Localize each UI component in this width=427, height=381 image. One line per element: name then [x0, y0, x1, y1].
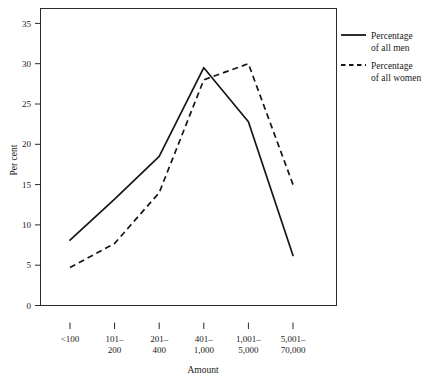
x-tick-label-5-line1: 1,001– — [236, 334, 261, 344]
x-tick-label-1-line1: <100 — [61, 334, 80, 344]
x-tick-label-3-line1: 201– — [150, 334, 169, 344]
x-tick-label-6-line1: 5,001– — [281, 334, 306, 344]
legend-label-men-line1: Percentage — [371, 31, 413, 41]
x-axis-ticks: <100 101– 200 201– 400 401– 1,000 1,001–… — [61, 323, 306, 356]
legend-label-men-line2: of all men — [371, 43, 410, 53]
y-tick-label-30: 30 — [22, 59, 32, 69]
x-axis-title: Amount — [187, 365, 219, 375]
chart-figure: 0 5 10 15 20 25 30 35 <100 101– 200 201–… — [0, 0, 427, 381]
series-line-women — [70, 64, 293, 268]
chart-legend: Percentage of all men Percentage of all … — [341, 31, 421, 83]
legend-label-women-line1: Percentage — [371, 61, 413, 71]
x-tick-label-2-line2: 200 — [108, 345, 122, 355]
y-tick-label-0: 0 — [27, 301, 32, 311]
y-tick-label-35: 35 — [22, 19, 32, 29]
x-tick-label-3-line2: 400 — [152, 345, 166, 355]
y-axis-ticks: 0 5 10 15 20 25 30 35 — [22, 19, 41, 311]
line-chart-svg: 0 5 10 15 20 25 30 35 <100 101– 200 201–… — [0, 0, 427, 381]
x-tick-label-6-line2: 70,000 — [281, 345, 306, 355]
plot-frame — [41, 9, 337, 306]
legend-label-women-line2: of all women — [371, 73, 421, 83]
x-tick-label-2-line1: 101– — [106, 334, 125, 344]
y-tick-label-25: 25 — [22, 99, 32, 109]
x-tick-label-4-line2: 1,000 — [194, 345, 215, 355]
y-tick-label-5: 5 — [27, 260, 32, 270]
x-tick-label-5-line2: 5,000 — [238, 345, 259, 355]
y-tick-label-15: 15 — [22, 180, 32, 190]
y-tick-label-20: 20 — [22, 139, 32, 149]
x-tick-label-4-line1: 401– — [195, 334, 214, 344]
y-tick-label-10: 10 — [22, 220, 32, 230]
y-axis-title: Per cent — [9, 144, 19, 175]
